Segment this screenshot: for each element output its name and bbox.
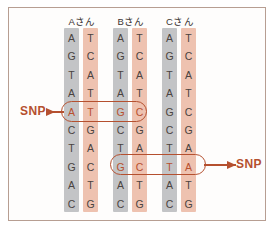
base-cell: C xyxy=(181,103,196,121)
base-cell: A xyxy=(162,29,177,47)
base-cell: T xyxy=(162,66,177,84)
base-cell: A xyxy=(64,84,79,102)
base-cell: T xyxy=(132,84,147,102)
snp-label-left: SNP xyxy=(20,104,46,118)
base-cell: C xyxy=(132,47,147,65)
base-cell: G xyxy=(181,195,196,213)
base-cell: A xyxy=(64,29,79,47)
base-cell: T xyxy=(181,176,196,194)
person-label-c: Cさん xyxy=(162,14,198,28)
base-cell: T xyxy=(113,66,128,84)
person-label-b: Bさん xyxy=(113,14,149,28)
base-cell: C xyxy=(162,195,177,213)
snp-highlight-oval-1 xyxy=(61,101,147,122)
base-cell: G xyxy=(181,121,196,139)
base-cell: T xyxy=(181,84,196,102)
base-cell: T xyxy=(132,176,147,194)
base-cell: G xyxy=(64,47,79,65)
snp-highlight-oval-2 xyxy=(110,154,206,175)
base-cell: T xyxy=(132,29,147,47)
snp-figure: Aさん Bさん Cさん AGTAACTGACTCATTGACTGAGTAGCTG… xyxy=(0,0,276,231)
snp-label-right: SNP xyxy=(236,157,262,171)
base-cell: C xyxy=(113,195,128,213)
base-cell: A xyxy=(83,139,98,157)
base-cell: A xyxy=(113,176,128,194)
base-cell: T xyxy=(181,29,196,47)
base-cell: T xyxy=(64,66,79,84)
base-cell: A xyxy=(113,29,128,47)
base-cell: G xyxy=(113,47,128,65)
base-cell: G xyxy=(83,121,98,139)
base-cell: A xyxy=(64,176,79,194)
base-cell: C xyxy=(162,121,177,139)
base-cell: G xyxy=(162,47,177,65)
base-cell: G xyxy=(132,121,147,139)
base-cell: C xyxy=(181,47,196,65)
base-cell: A xyxy=(181,66,196,84)
base-cell: T xyxy=(83,84,98,102)
base-cell: A xyxy=(113,84,128,102)
base-cell: C xyxy=(64,195,79,213)
snp-arrow-right-icon xyxy=(227,161,236,169)
base-cell: T xyxy=(83,29,98,47)
base-cell: G xyxy=(162,103,177,121)
base-cell: G xyxy=(64,158,79,176)
base-cell: C xyxy=(113,121,128,139)
sequence-diagram: Aさん Bさん Cさん AGTAACTGACTCATTGACTGAGTAGCTG… xyxy=(0,0,276,231)
base-cell: A xyxy=(162,176,177,194)
base-cell: A xyxy=(162,84,177,102)
person-label-a: Aさん xyxy=(64,14,100,28)
base-cell: A xyxy=(83,66,98,84)
snp-arrow-left-icon xyxy=(46,108,55,116)
base-cell: C xyxy=(64,121,79,139)
base-cell: G xyxy=(132,195,147,213)
base-cell: A xyxy=(132,66,147,84)
base-cell: C xyxy=(83,47,98,65)
base-cell: T xyxy=(83,176,98,194)
base-cell: G xyxy=(83,195,98,213)
base-cell: C xyxy=(83,158,98,176)
base-cell: T xyxy=(64,139,79,157)
